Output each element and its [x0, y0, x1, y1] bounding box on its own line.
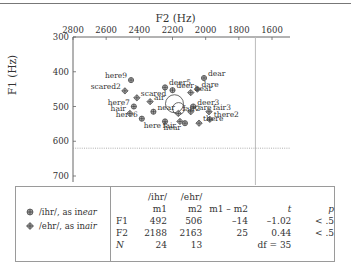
x-tick-label: 1600 — [261, 25, 283, 35]
legend-word: air — [85, 221, 97, 231]
header-row-2: m1 m2 m1 – m2 t p — [116, 203, 334, 215]
legend-text: /ihr/, as in — [39, 207, 83, 217]
scatter-plot: 2800260024002200200018001600300400500600… — [0, 0, 351, 185]
header-m2: m2 — [167, 203, 202, 215]
table-row: F2 2188 2163 25 0.44 < .5 — [116, 227, 334, 239]
legend: /ihr/, as in ear /ehr/, as in air — [26, 205, 97, 233]
header-ihr: /ihr/ — [137, 191, 167, 203]
table-row: N 24 13 df = 35 — [116, 239, 334, 251]
point-label: fair — [163, 121, 177, 130]
circle-cross-marker-icon — [26, 208, 34, 216]
x-tick-label: 2600 — [95, 25, 117, 35]
point-label: fair2 — [182, 104, 200, 113]
stats-panel: /ihr/, as in ear /ehr/, as in air /ihr/ … — [15, 186, 335, 262]
legend-item-ihr: /ihr/, as in ear — [26, 205, 97, 219]
table-row: F1 492 506 –14 –1.02 < .5 — [116, 215, 334, 227]
point-label: scared2 — [91, 82, 121, 91]
header-m1: m1 — [137, 203, 167, 215]
x-tick-label: 2400 — [129, 25, 151, 35]
x-tick-label: 2000 — [195, 25, 217, 35]
x-tick-label: 1800 — [228, 25, 250, 35]
y-tick-label: 700 — [53, 171, 69, 181]
point-label: bear — [195, 84, 213, 93]
point-label: deer — [177, 81, 195, 90]
header-ehr: /ehr/ — [167, 191, 202, 203]
header-t: t — [248, 203, 291, 215]
x-tick-label: 2200 — [162, 25, 184, 35]
point-label: here9 — [105, 71, 127, 80]
legend-item-ehr: /ehr/, as in air — [26, 219, 97, 233]
header-p: p — [291, 203, 334, 215]
header-row-1: /ihr/ /ehr/ — [116, 191, 334, 203]
stats-table: /ihr/ /ehr/ m1 m2 m1 – m2 t p F1 492 506… — [116, 191, 334, 251]
legend-word: ear — [83, 207, 97, 217]
y-tick-label: 600 — [53, 136, 69, 146]
legend-text: /ehr/, as in — [39, 221, 85, 231]
point-label: here — [144, 121, 162, 130]
header-diff: m1 – m2 — [202, 203, 248, 215]
diamond-cross-marker-icon — [26, 222, 34, 230]
point-label: dear — [208, 69, 226, 78]
point-label: there — [203, 114, 224, 123]
point-label: hair — [111, 104, 127, 113]
y-tick-label: 400 — [53, 67, 69, 77]
y-tick-label: 500 — [53, 102, 69, 112]
panel-divider — [110, 187, 111, 261]
point-label: air — [154, 93, 165, 102]
y-tick-label: 300 — [53, 32, 69, 42]
point-label: near — [157, 103, 175, 112]
